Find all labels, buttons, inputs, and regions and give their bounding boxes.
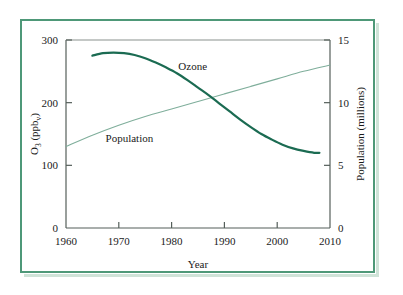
- y-axis-ticklabels-left: 0100200300: [42, 34, 59, 234]
- x-axis-ticklabels: 196019701980199020002010: [55, 235, 342, 247]
- y-axis-title-left: O3 (ppbv): [28, 113, 43, 155]
- y-axis-ticks-right: [324, 40, 330, 165]
- series-label-ozone: Ozone: [178, 60, 207, 72]
- x-ticklabel: 1990: [213, 235, 236, 247]
- x-ticklabel: 1960: [55, 235, 78, 247]
- series-label-population: Population: [106, 132, 154, 144]
- y-ticklabel-right: 5: [338, 159, 344, 171]
- y-ticklabel-left: 0: [53, 222, 59, 234]
- x-ticklabel: 2010: [319, 235, 342, 247]
- figure-root: 0100200300 051015 1960197019801990200020…: [0, 0, 403, 295]
- y-axis-ticklabels-right: 051015: [338, 34, 350, 234]
- y-ticklabel-right: 15: [338, 34, 350, 46]
- y-ticklabel-right: 0: [338, 222, 344, 234]
- chart-plot: 0100200300 051015 1960197019801990200020…: [0, 0, 403, 295]
- ylabel-o: O: [28, 147, 40, 155]
- x-ticklabel: 1970: [108, 235, 131, 247]
- x-axis-title: Year: [188, 258, 209, 270]
- ylabel-ppb: (ppb: [28, 120, 41, 143]
- y-ticklabel-left: 300: [42, 34, 59, 46]
- x-axis-ticks: [119, 222, 277, 228]
- y-ticklabel-right: 10: [338, 97, 350, 109]
- ylabel-paren: ): [28, 113, 41, 117]
- x-ticklabel: 2000: [266, 235, 289, 247]
- x-ticklabel: 1980: [161, 235, 184, 247]
- y-ticklabel-left: 100: [42, 159, 59, 171]
- y-ticklabel-left: 200: [42, 97, 59, 109]
- y-axis-title-right: Population (millions): [354, 87, 367, 181]
